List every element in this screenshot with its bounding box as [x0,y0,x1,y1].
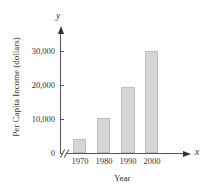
bar-1970 [73,139,86,153]
x-tick-label: 1980 [92,156,116,166]
y-tick-label: 0 [15,148,55,158]
x-tick-label: 1970 [68,156,92,166]
x-axis-variable: x [195,147,199,157]
y-axis-arrow-icon [58,26,64,34]
y-axis-line [60,30,61,154]
x-axis-title: Year [114,173,131,183]
y-tick [60,119,64,120]
x-tick-label: 2000 [140,156,164,166]
bar-2000 [145,51,158,153]
x-axis-arrow-icon [183,151,191,157]
bar-1990 [121,87,135,153]
x-axis-line [60,153,184,154]
bar-1980 [97,118,110,153]
y-axis-title: Per Capita Income (dollars) [11,37,21,137]
y-tick-label: 10,000 [15,114,55,124]
x-tick-label: 1990 [116,156,140,166]
y-tick-label: 30,000 [15,46,55,56]
y-axis-variable: y [56,11,60,21]
y-tick [60,51,64,52]
bar-chart: y x 0 10,000 20,000 30,000 1970 1980 199… [0,0,211,193]
y-tick [60,85,64,86]
y-tick-label: 20,000 [15,80,55,90]
